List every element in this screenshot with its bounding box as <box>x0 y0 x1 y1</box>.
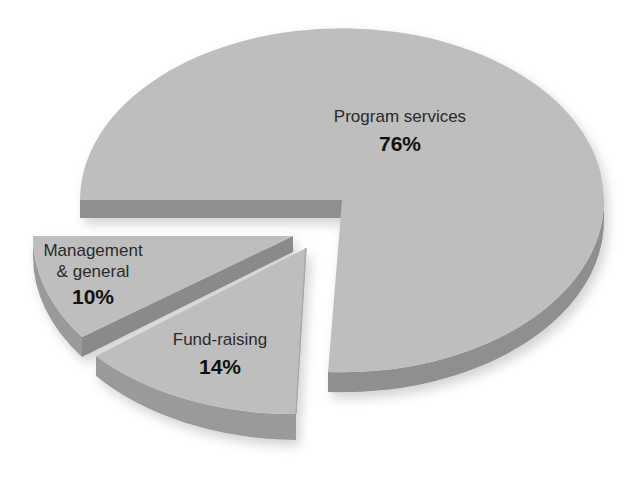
slice-program-cut-face <box>80 200 342 218</box>
label-management-general: Management & general 10% <box>28 240 158 310</box>
label-management-pct: 10% <box>28 284 158 310</box>
label-management-name-line1: Management <box>28 240 158 261</box>
label-fund-raising: Fund-raising 14% <box>155 329 285 380</box>
label-management-name-line2: & general <box>28 261 158 282</box>
label-fundraising-pct: 14% <box>155 354 285 380</box>
label-fundraising-name: Fund-raising <box>155 329 285 350</box>
label-program-services: Program services 76% <box>300 106 500 157</box>
label-program-pct: 76% <box>300 131 500 157</box>
pie-chart <box>0 0 636 477</box>
label-program-name: Program services <box>300 106 500 127</box>
